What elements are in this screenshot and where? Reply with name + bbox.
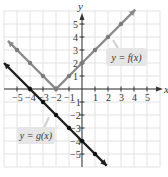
- x-tick-label: 2: [106, 92, 111, 103]
- y-axis-label: y: [77, 0, 83, 12]
- x-tick-label: −5: [12, 92, 23, 103]
- g-label: y = g(x): [19, 130, 53, 142]
- g-label-pointer: [44, 117, 49, 128]
- data-point: [54, 113, 58, 117]
- f-label: y = f(x): [110, 52, 142, 64]
- y-tick-label: 4: [73, 32, 78, 43]
- y-tick-label: −1: [70, 97, 81, 108]
- data-point: [67, 74, 71, 78]
- graph-canvas: x y −5 −4 −3 −2 −1 1 2 3 4 5 5 4 3 2 1 −…: [0, 0, 168, 177]
- data-point: [80, 61, 84, 65]
- data-point: [15, 48, 19, 52]
- x-tick-label: 1: [93, 92, 98, 103]
- x-tick-label: 4: [132, 92, 137, 103]
- data-point: [54, 87, 58, 91]
- x-tick-label: 3: [119, 92, 124, 103]
- y-tick-label: 5: [73, 19, 78, 30]
- data-point: [41, 74, 45, 78]
- series-g: [4, 63, 107, 166]
- data-point: [28, 61, 32, 65]
- x-axis-label: x: [163, 83, 168, 95]
- f-label-pointer: [113, 40, 118, 48]
- y-tick-label: −3: [70, 123, 81, 134]
- data-point: [80, 139, 84, 143]
- f-label-callout: y = f(x): [106, 40, 147, 66]
- data-point: [67, 126, 71, 130]
- data-point: [106, 35, 110, 39]
- y-tick-label: −2: [70, 110, 81, 121]
- data-point: [28, 87, 32, 91]
- data-point: [41, 100, 45, 104]
- y-tick-label: −5: [70, 149, 81, 160]
- x-tick-label: 5: [145, 92, 150, 103]
- x-tick-labels: −5 −4 −3 −2 −1 1 2 3 4 5: [12, 92, 150, 103]
- data-point: [93, 48, 97, 52]
- data-point: [119, 22, 123, 26]
- g-label-callout: y = g(x): [17, 117, 55, 144]
- y-tick-label: 3: [73, 45, 78, 56]
- y-axis-arrow-icon: [80, 13, 85, 20]
- x-tick-label: −2: [51, 92, 62, 103]
- data-point: [93, 152, 97, 156]
